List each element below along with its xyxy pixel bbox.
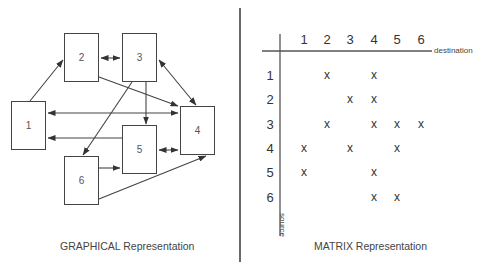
matrix-mark: x: [391, 118, 403, 130]
matrix-mark: x: [368, 191, 380, 203]
matrix-mark: x: [298, 142, 310, 154]
matrix-mark: x: [298, 166, 310, 178]
graph-node-1: 1: [11, 101, 46, 150]
graph-node-label: 4: [195, 125, 201, 136]
destination-axis-label: destination: [434, 46, 473, 55]
graph-node-6: 6: [64, 156, 99, 205]
matrix-row-header: 1: [262, 69, 278, 83]
matrix-column-header: 1: [296, 33, 312, 47]
matrix-mark: x: [368, 93, 380, 105]
matrix-column-header: 3: [342, 33, 358, 47]
matrix-column-header: 6: [413, 33, 429, 47]
matrix-mark: x: [391, 191, 403, 203]
graph-node-label: 6: [79, 175, 85, 186]
matrix-row-header: 6: [262, 191, 278, 205]
matrix-axes: [262, 34, 432, 236]
matrix-row-header: 5: [262, 166, 278, 180]
matrix-row-header: 2: [262, 93, 278, 107]
edge-1-to-2: [30, 60, 63, 101]
matrix-mark: x: [321, 118, 333, 130]
graph-node-3: 3: [122, 33, 157, 82]
source-axis-label: source: [278, 213, 287, 237]
matrix-row-header: 4: [262, 142, 278, 156]
matrix-mark: x: [368, 69, 380, 81]
graphical-caption: GRAPHICAL Representation: [60, 240, 194, 252]
graph-node-2: 2: [64, 33, 99, 82]
matrix-mark: x: [368, 166, 380, 178]
matrix-column-header: 5: [389, 33, 405, 47]
graph-node-5: 5: [122, 125, 157, 174]
matrix-row-header: 3: [262, 118, 278, 132]
edge-3-4-bidirectional: [159, 60, 196, 105]
graph-node-label: 2: [79, 52, 85, 63]
matrix-mark: x: [344, 142, 356, 154]
graph-node-4: 4: [180, 106, 215, 155]
matrix-mark: x: [368, 118, 380, 130]
graph-node-label: 5: [137, 144, 143, 155]
section-divider: [239, 8, 241, 262]
matrix-mark: x: [415, 118, 427, 130]
matrix-column-header: 2: [319, 33, 335, 47]
graph-node-label: 1: [26, 120, 32, 131]
matrix-mark: x: [344, 93, 356, 105]
graph-node-label: 3: [137, 52, 143, 63]
matrix-column-header: 4: [366, 33, 382, 47]
matrix-caption: MATRIX Representation: [314, 240, 427, 252]
matrix-mark: x: [391, 142, 403, 154]
matrix-mark: x: [321, 69, 333, 81]
